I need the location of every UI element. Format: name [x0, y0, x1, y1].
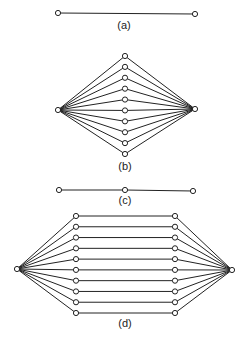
terminal-node-right — [192, 11, 197, 16]
intermediate-node — [122, 53, 127, 58]
intermediate-node-right-column — [172, 235, 177, 240]
edge — [175, 227, 232, 270]
edge — [175, 270, 232, 313]
edge — [125, 109, 195, 143]
terminal-node-left — [14, 266, 19, 271]
edge — [58, 110, 125, 143]
edge — [17, 269, 76, 302]
intermediate-node-left-column — [73, 213, 78, 218]
edge — [58, 110, 125, 154]
caption-a: (a) — [117, 19, 130, 31]
terminal-node-right — [190, 188, 195, 193]
edge — [175, 270, 232, 291]
terminal-node-left — [55, 107, 60, 112]
intermediate-node — [122, 75, 127, 80]
edge — [58, 13, 195, 14]
intermediate-node-left-column — [73, 224, 78, 229]
terminal-node-right — [192, 106, 197, 111]
terminal-node-left — [55, 10, 60, 15]
panel-d — [14, 213, 234, 315]
intermediate-node — [122, 97, 127, 102]
edge — [175, 248, 232, 270]
edge — [17, 269, 76, 313]
edge — [125, 67, 195, 109]
intermediate-node-left-column — [73, 278, 78, 283]
panel-a — [55, 10, 197, 16]
intermediate-node-left-column — [73, 267, 78, 272]
panel-c — [56, 187, 195, 193]
edge — [125, 109, 195, 132]
intermediate-node-right-column — [172, 278, 177, 283]
intermediate-node — [122, 187, 127, 192]
intermediate-node — [122, 64, 127, 69]
intermediate-node-right-column — [172, 224, 177, 229]
intermediate-node-right-column — [172, 246, 177, 251]
edge — [125, 109, 195, 154]
edge — [17, 269, 76, 270]
intermediate-node — [122, 151, 127, 156]
terminal-node-right — [229, 267, 234, 272]
intermediate-node — [122, 108, 127, 113]
caption-b: (b) — [118, 160, 131, 172]
edge — [125, 109, 195, 110]
intermediate-node-right-column — [172, 289, 177, 294]
intermediate-node-right-column — [172, 213, 177, 218]
intermediate-node — [122, 130, 127, 135]
edge — [125, 190, 193, 191]
edge — [58, 89, 125, 110]
panel-b — [55, 53, 197, 156]
intermediate-node-left-column — [73, 246, 78, 251]
edge — [58, 110, 125, 121]
intermediate-node-right-column — [172, 267, 177, 272]
intermediate-node-left-column — [73, 257, 78, 262]
intermediate-node-left-column — [73, 235, 78, 240]
edge — [175, 259, 232, 270]
edge — [17, 227, 76, 269]
intermediate-node — [122, 119, 127, 124]
edge — [17, 269, 76, 281]
intermediate-node — [122, 86, 127, 91]
edge — [17, 248, 76, 269]
edge — [58, 67, 125, 110]
intermediate-node-left-column — [73, 300, 78, 305]
intermediate-node-right-column — [172, 257, 177, 262]
intermediate-node-left-column — [73, 310, 78, 315]
edge — [125, 89, 195, 109]
graph-figure: (a) (b) (c) (d) — [0, 0, 246, 341]
intermediate-node-right-column — [172, 310, 177, 315]
intermediate-node-right-column — [172, 300, 177, 305]
caption-c: (c) — [119, 194, 132, 206]
edge — [58, 110, 125, 132]
edge — [175, 216, 232, 270]
intermediate-node-left-column — [73, 289, 78, 294]
terminal-node-left — [56, 187, 61, 192]
intermediate-node — [122, 141, 127, 146]
edge — [17, 269, 76, 291]
caption-d: (d) — [118, 317, 131, 329]
